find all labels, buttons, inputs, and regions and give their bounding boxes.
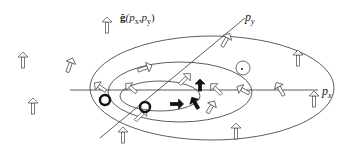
pseudospin-arrow-icon [309,91,319,107]
vortex-loop-icon [100,95,110,105]
pseudospin-arrow-icon [91,79,108,95]
pseudospin-arrow-icon [195,79,205,91]
pseudospin-arrow-icon [28,98,38,114]
vortex-center-dot [241,68,243,70]
vortex-loop-icon [236,61,250,75]
pseudospin-arrow-icon [118,127,128,143]
pseudospin-arrow-icon [272,80,288,98]
pseudospin-arrow-icon [18,52,28,68]
contour-inner [120,81,200,111]
py-axis-label: py [245,10,255,26]
pseudospin-arrow-icon [63,56,78,74]
pseudospin-arrow-icon [171,99,184,109]
py-axis [100,18,245,138]
pseudospin-arrows [18,17,319,143]
pseudospin-arrow-icon [102,17,112,33]
pseudospin-arrow-icon [136,61,154,76]
pseudospin-arrow-icon [231,123,241,139]
pseudospin-arrow-icon [203,98,219,115]
pseudospin-arrow-icon [122,80,139,97]
pseudospin-diagram [0,0,349,150]
field-label: ĝ(px,py) [120,11,155,26]
px-axis-label: px [322,84,332,100]
pseudospin-arrow-icon [187,95,202,111]
pseudospin-arrow-icon [207,80,225,98]
